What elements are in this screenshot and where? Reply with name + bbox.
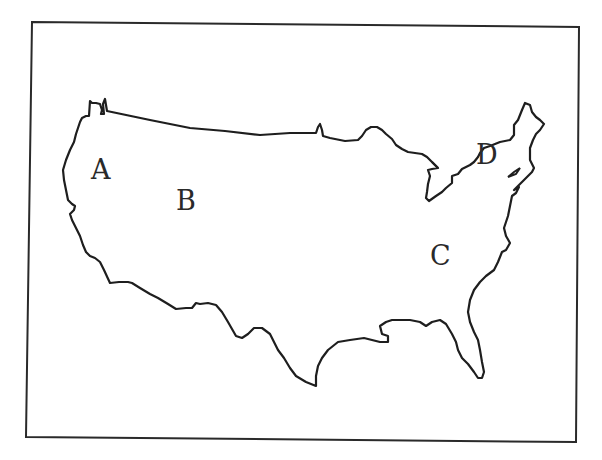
label-b: B: [176, 185, 196, 216]
great-lakes-notch: [432, 162, 438, 168]
label-c: C: [430, 240, 451, 271]
us-outline: [63, 99, 544, 386]
label-a: A: [90, 154, 111, 185]
label-d: D: [476, 139, 498, 170]
map-figure: A B C D: [0, 0, 602, 460]
long-island: [508, 168, 520, 177]
